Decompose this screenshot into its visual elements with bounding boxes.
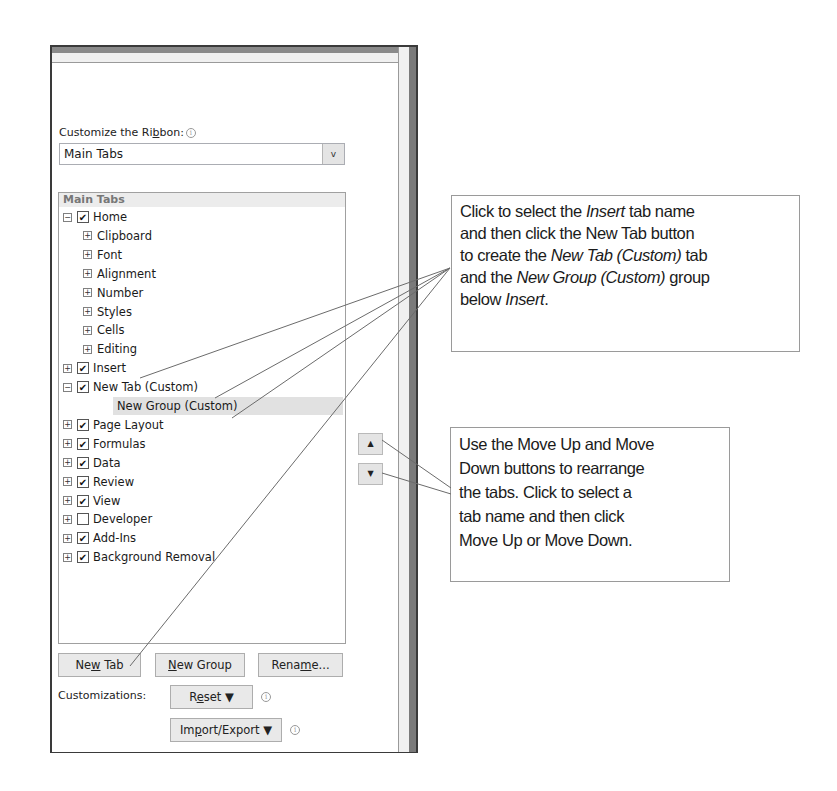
checkbox[interactable] xyxy=(77,513,89,525)
tree-item-cells[interactable]: +Cells xyxy=(83,321,125,339)
callout-emph: New Tab (Custom) xyxy=(551,246,682,264)
info-icon[interactable]: i xyxy=(261,692,271,702)
new-group-button[interactable]: New Group xyxy=(155,653,245,677)
expand-icon[interactable]: + xyxy=(63,420,72,429)
tree-item-data[interactable]: +✔Data xyxy=(63,454,120,472)
callout-text: Click to select the xyxy=(460,202,586,220)
btn-text: Tab xyxy=(100,658,123,672)
checkbox[interactable]: ✔ xyxy=(77,419,89,431)
callout-new-tab: Click to select the Insert tab name and … xyxy=(451,195,800,352)
expand-icon[interactable]: + xyxy=(83,288,92,297)
checkbox[interactable]: ✔ xyxy=(77,551,89,563)
tree-item-number[interactable]: +Number xyxy=(83,284,143,302)
expand-icon[interactable]: + xyxy=(63,439,72,448)
move-up-button[interactable]: ▲ xyxy=(358,433,383,455)
tree-item-label: New Tab (Custom) xyxy=(93,378,198,396)
callout-line: the tabs. Click to select a xyxy=(459,480,721,504)
expand-icon[interactable]: + xyxy=(83,345,92,354)
callout-line: Down buttons to rearrange xyxy=(459,456,721,480)
btn-text: Ne xyxy=(75,658,91,672)
reset-button[interactable]: Reset ▼ xyxy=(170,685,253,709)
callout-text: to create the xyxy=(460,246,551,264)
expand-icon[interactable]: + xyxy=(83,307,92,316)
tree-item-page-layout[interactable]: +✔Page Layout xyxy=(63,416,164,434)
tree-item-label: Clipboard xyxy=(97,227,152,245)
checkbox[interactable]: ✔ xyxy=(77,381,89,393)
expand-icon[interactable]: + xyxy=(63,458,72,467)
btn-accesskey: p xyxy=(195,723,202,737)
tree-item-label: Editing xyxy=(97,340,137,358)
btn-text: ort/Export ▼ xyxy=(202,723,272,737)
info-icon[interactable]: i xyxy=(186,128,196,138)
expand-icon[interactable]: + xyxy=(83,231,92,240)
btn-text: R xyxy=(189,690,196,704)
info-icon[interactable]: i xyxy=(290,725,300,735)
checkbox[interactable]: ✔ xyxy=(77,495,89,507)
checkbox[interactable]: ✔ xyxy=(77,211,89,223)
btn-accesskey: m xyxy=(300,658,311,672)
collapse-icon[interactable]: − xyxy=(63,213,72,222)
tree-item-label: View xyxy=(93,492,120,510)
callout-text: and the xyxy=(460,268,516,286)
expand-icon[interactable]: + xyxy=(63,364,72,373)
checkbox[interactable]: ✔ xyxy=(77,438,89,450)
callout-line: below Insert. xyxy=(460,288,791,310)
new-tab-button[interactable]: New Tab xyxy=(58,653,141,677)
callout-line: and the New Group (Custom) group xyxy=(460,266,791,288)
expand-icon[interactable]: + xyxy=(83,326,92,335)
tree-item-label: Review xyxy=(93,473,134,491)
import-export-button[interactable]: Import/Export ▼ xyxy=(170,718,282,742)
triangle-down-icon: ▼ xyxy=(367,469,373,478)
callout-move-buttons: Use the Move Up and Move Down buttons to… xyxy=(450,427,730,582)
expand-icon[interactable]: + xyxy=(63,477,72,486)
tree-item-label: Font xyxy=(97,246,122,264)
expand-icon[interactable]: + xyxy=(63,496,72,505)
expand-icon[interactable]: + xyxy=(83,250,92,259)
tree-item-new-tab-custom[interactable]: −✔New Tab (Custom) xyxy=(63,378,198,396)
ribbon-tabs-dropdown[interactable]: Main Tabs v xyxy=(59,143,345,165)
expand-icon[interactable]: + xyxy=(63,553,72,562)
tree-item-home[interactable]: −✔Home xyxy=(63,208,127,226)
customizations-label: Customizations: xyxy=(58,689,146,702)
callout-line: and then click the New Tab button xyxy=(460,222,791,244)
checkbox[interactable]: ✔ xyxy=(77,362,89,374)
callout-text: tab xyxy=(681,246,707,264)
dialog-scroll-edge[interactable] xyxy=(398,47,416,752)
btn-accesskey: N xyxy=(168,658,177,672)
tree-item-label: Background Removal xyxy=(93,548,215,566)
btn-accesskey: e xyxy=(197,690,204,704)
tree-item-clipboard[interactable]: +Clipboard xyxy=(83,227,152,245)
tree-item-add-ins[interactable]: +✔Add-Ins xyxy=(63,529,136,547)
tree-item-styles[interactable]: +Styles xyxy=(83,303,132,321)
btn-text: set ▼ xyxy=(204,690,234,704)
tree-item-editing[interactable]: +Editing xyxy=(83,340,137,358)
chevron-down-icon[interactable]: v xyxy=(322,144,344,164)
tree-item-background-removal[interactable]: +✔Background Removal xyxy=(63,548,215,566)
tree-item-alignment[interactable]: +Alignment xyxy=(83,265,156,283)
btn-text: ew Group xyxy=(177,658,232,672)
expand-icon[interactable]: + xyxy=(63,515,72,524)
tree-item-label: Styles xyxy=(97,303,132,321)
expand-icon[interactable]: + xyxy=(83,269,92,278)
tree-item-insert[interactable]: +✔Insert xyxy=(63,359,126,377)
triangle-up-icon: ▲ xyxy=(367,439,373,448)
callout-line: Use the Move Up and Move xyxy=(459,432,721,456)
rename-button[interactable]: Rename... xyxy=(258,653,343,677)
tree-item-label: Data xyxy=(93,454,120,472)
checkbox[interactable]: ✔ xyxy=(77,532,89,544)
checkbox[interactable]: ✔ xyxy=(77,457,89,469)
checkbox[interactable]: ✔ xyxy=(77,476,89,488)
collapse-icon[interactable]: − xyxy=(63,383,72,392)
callout-text: below xyxy=(460,290,505,308)
tree-item-review[interactable]: +✔Review xyxy=(63,473,134,491)
tree-item-label: Home xyxy=(93,208,127,226)
tree-item-new-group-custom[interactable]: New Group (Custom) xyxy=(113,397,343,415)
tree-item-view[interactable]: +✔View xyxy=(63,492,120,510)
tree-item-developer[interactable]: +Developer xyxy=(63,510,152,528)
tree-item-label: Page Layout xyxy=(93,416,164,434)
tree-item-font[interactable]: +Font xyxy=(83,246,122,264)
expand-icon[interactable]: + xyxy=(63,534,72,543)
move-down-button[interactable]: ▼ xyxy=(358,463,383,485)
customize-ribbon-label: Customize the Ribbon:i xyxy=(59,126,196,139)
tree-item-formulas[interactable]: +✔Formulas xyxy=(63,435,146,453)
